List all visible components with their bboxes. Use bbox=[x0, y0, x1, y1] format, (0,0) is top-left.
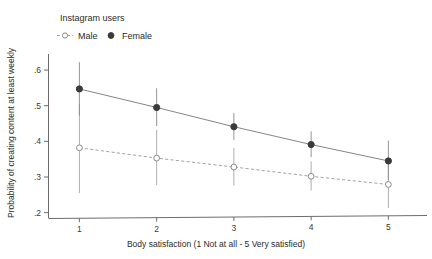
x-tick-label: 1 bbox=[77, 224, 82, 234]
y-tick-label: .4 bbox=[34, 136, 41, 146]
x-axis: 12345 Body satisfaction (1 Not at all - … bbox=[49, 216, 428, 250]
legend-label-female: Female bbox=[122, 31, 152, 41]
open-circle-with-line-icon bbox=[62, 33, 67, 38]
x-tick-label: 2 bbox=[154, 224, 159, 234]
chart-canvas: Instagram users Male Female .2.3.4.5.6 P… bbox=[0, 0, 432, 259]
y-tick-label: .2 bbox=[34, 208, 41, 218]
legend-title: Instagram users bbox=[60, 13, 125, 23]
x-axis-line bbox=[49, 216, 428, 219]
x-tick-label: 5 bbox=[386, 222, 391, 232]
legend-label-male: Male bbox=[78, 31, 98, 41]
data-point[interactable] bbox=[308, 173, 314, 179]
data-point[interactable] bbox=[385, 182, 391, 188]
y-tick-label: .6 bbox=[34, 65, 41, 75]
data-point[interactable] bbox=[385, 158, 391, 164]
legend-entry-male[interactable]: Male bbox=[57, 31, 98, 41]
filled-circle-icon bbox=[108, 33, 114, 39]
y-tick-group: .2.3.4.5.6 bbox=[34, 65, 49, 218]
data-point[interactable] bbox=[76, 86, 82, 92]
data-point[interactable] bbox=[154, 155, 160, 161]
y-tick-label: .3 bbox=[34, 172, 41, 182]
x-axis-title: Body satisfaction (1 Not at all - 5 Very… bbox=[127, 239, 305, 249]
x-tick-label: 4 bbox=[309, 222, 314, 232]
y-tick-label: .5 bbox=[34, 101, 41, 111]
x-tick-label: 3 bbox=[232, 223, 237, 233]
legend: Instagram users Male Female bbox=[57, 13, 152, 41]
plot-area bbox=[76, 62, 391, 208]
y-axis: .2.3.4.5.6 Probability of creating conte… bbox=[6, 47, 49, 218]
data-point[interactable] bbox=[76, 145, 82, 151]
data-point[interactable] bbox=[308, 141, 314, 147]
chart-figure: Instagram users Male Female .2.3.4.5.6 P… bbox=[0, 0, 432, 259]
legend-entry-female[interactable]: Female bbox=[108, 31, 152, 41]
data-point[interactable] bbox=[154, 104, 160, 110]
data-point[interactable] bbox=[231, 164, 237, 170]
data-point[interactable] bbox=[231, 124, 237, 130]
y-axis-title: Probability of creating content at least… bbox=[6, 47, 16, 218]
x-tick-group: 12345 bbox=[77, 216, 391, 234]
